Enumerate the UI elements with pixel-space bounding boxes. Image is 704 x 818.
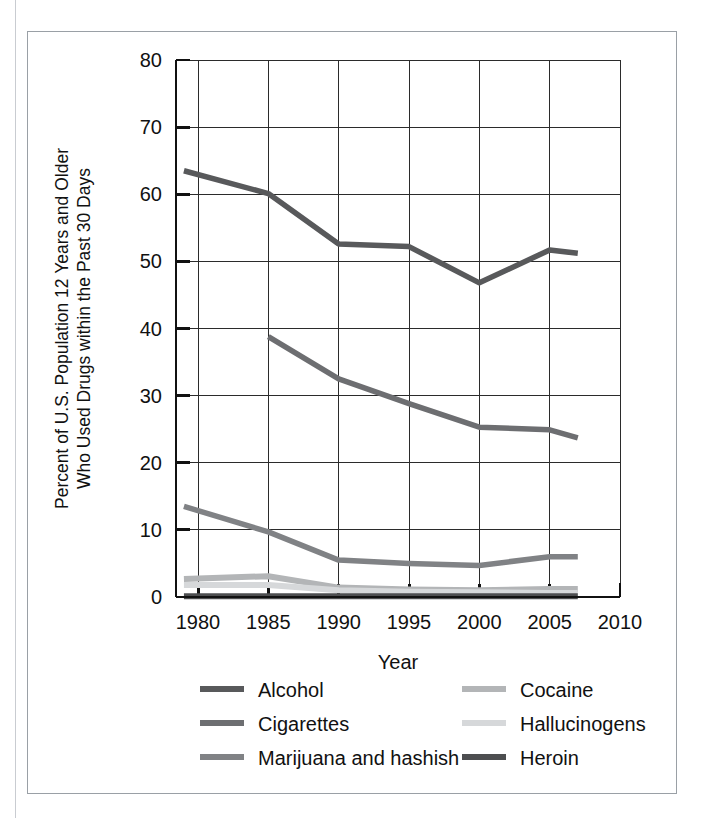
x-tick-label: 1985	[246, 611, 291, 633]
legend-swatch	[462, 720, 506, 726]
y-tick-label: 80	[140, 49, 162, 71]
x-tick-label: 2000	[457, 611, 502, 633]
y-tick-label: 10	[140, 519, 162, 541]
axis-ticks	[176, 127, 550, 597]
legend-swatch	[200, 686, 244, 692]
y-tick-label: 40	[140, 318, 162, 340]
y-tick-label: 20	[140, 452, 162, 474]
y-axis-title-line-1: Percent of U.S. Population 12 Years and …	[52, 148, 72, 509]
legend-label: Marijuana and hashish	[258, 747, 459, 769]
legend-label: Heroin	[520, 747, 579, 769]
legend-swatch	[462, 754, 506, 760]
x-tick-label: 1990	[316, 611, 361, 633]
x-tick-label: 2005	[527, 611, 572, 633]
y-tick-label: 30	[140, 385, 162, 407]
x-tick-label: 2010	[598, 611, 643, 633]
gridlines	[190, 60, 620, 597]
line-chart: 0102030405060708019801985199019952000200…	[0, 0, 704, 818]
legend-swatch	[200, 754, 244, 760]
figure-root: 0102030405060708019801985199019952000200…	[0, 0, 704, 818]
y-tick-label: 60	[140, 183, 162, 205]
x-tick-label: 1980	[176, 611, 221, 633]
x-axis-title: Year	[378, 651, 419, 673]
y-axis-title-line-2: Who Used Drugs within the Past 30 Days	[74, 168, 94, 489]
series-lines	[184, 171, 578, 597]
legend-label: Hallucinogens	[520, 713, 646, 735]
chart-legend: AlcoholCigarettesMarijuana and hashishCo…	[200, 679, 646, 769]
y-tick-label: 0	[151, 586, 162, 608]
y-tick-label: 50	[140, 250, 162, 272]
series-line-alcohol	[184, 171, 578, 283]
legend-label: Cigarettes	[258, 713, 349, 735]
legend-swatch	[462, 686, 506, 692]
series-line-marijuana-and-hashish	[184, 506, 578, 565]
legend-label: Cocaine	[520, 679, 593, 701]
legend-swatch	[200, 720, 244, 726]
axis-tick-labels: 0102030405060708019801985199019952000200…	[140, 49, 643, 633]
x-tick-label: 1995	[387, 611, 432, 633]
legend-label: Alcohol	[258, 679, 324, 701]
series-line-cigarettes	[268, 337, 577, 438]
y-tick-label: 70	[140, 116, 162, 138]
